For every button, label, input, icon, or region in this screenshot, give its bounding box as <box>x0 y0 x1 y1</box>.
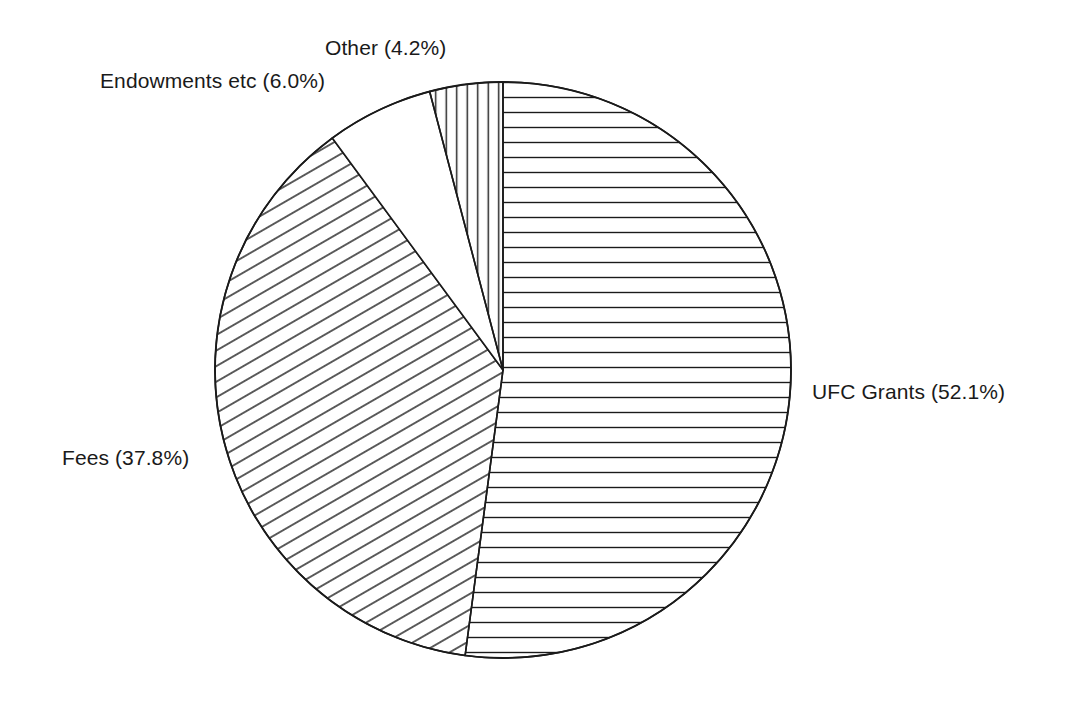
pie-label-endowments-etc: Endowments etc (6.0%) <box>100 70 325 91</box>
pie-chart-figure <box>0 0 1087 704</box>
pie-label-other: Other (4.2%) <box>325 37 446 58</box>
pie-label-ufc-grants: UFC Grants (52.1%) <box>812 381 1005 402</box>
pie-label-fees: Fees (37.8%) <box>62 447 189 468</box>
pie-slices <box>215 82 791 658</box>
